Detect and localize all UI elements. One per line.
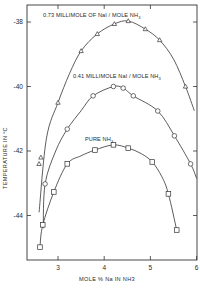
data-point-square: [150, 160, 155, 165]
series-curve-1: [43, 86, 196, 228]
y-tick-label: -42: [14, 147, 24, 154]
series-curve-2: [40, 145, 177, 247]
series-curve-0: [39, 21, 194, 213]
data-point-triangle: [37, 162, 41, 166]
series-label-041: 0.41 MILLIMOLE NaI / MOLE NH3: [73, 73, 162, 81]
data-point-square: [174, 228, 179, 233]
data-point-square: [126, 146, 131, 151]
y-tick-label: -44: [14, 212, 24, 219]
data-point-circle: [111, 84, 116, 89]
x-tick-label: 4: [102, 264, 106, 271]
data-point-circle: [65, 127, 70, 132]
chart-container: 3456-38-40-42-44 0.73 MILLIMOLE OF NaI /…: [0, 0, 200, 290]
x-tick-label: 5: [149, 264, 153, 271]
data-point-square: [65, 162, 70, 167]
data-point-circle: [43, 182, 48, 187]
plot-frame: [27, 5, 197, 260]
data-point-circle: [131, 94, 136, 99]
y-tick-label: -38: [14, 18, 24, 25]
data-point-triangle: [183, 84, 187, 88]
data-point-square: [40, 223, 45, 228]
data-markers: [37, 19, 193, 250]
y-tick-label: -40: [14, 83, 24, 90]
data-point-circle: [91, 94, 96, 99]
x-axis-title: MOLE % Na IN NH3: [79, 276, 135, 282]
data-point-square: [52, 190, 57, 195]
data-point-triangle: [143, 27, 147, 31]
data-point-circle: [172, 134, 177, 139]
data-point-triangle: [39, 155, 43, 159]
chart-svg: 3456-38-40-42-44 0.73 MILLIMOLE OF NaI /…: [0, 0, 200, 290]
data-point-circle: [121, 86, 126, 91]
data-point-square: [93, 148, 98, 153]
data-point-square: [166, 192, 171, 197]
series-label-pure: PURE NH3: [85, 136, 114, 144]
x-tick-label: 6: [195, 264, 199, 271]
y-axis-title: TEMPERATURE IN °C: [2, 127, 8, 189]
axis-ticks: [27, 5, 197, 260]
series-label-073: 0.73 MILLIMOLE OF NaI / MOLE NH3: [43, 12, 141, 20]
data-point-circle: [188, 162, 193, 167]
data-point-triangle: [56, 100, 60, 104]
data-point-circle: [155, 109, 160, 114]
data-point-square: [38, 245, 43, 250]
x-tick-label: 3: [56, 264, 60, 271]
